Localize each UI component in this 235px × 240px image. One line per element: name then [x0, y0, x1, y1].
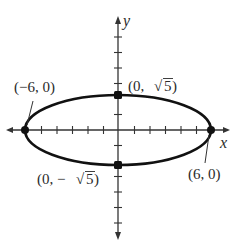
y-axis-bottom-arrow-icon [115, 232, 121, 240]
y-axis-top-arrow-icon [115, 16, 121, 24]
leader-line-left [27, 101, 33, 125]
label-right-vertex: (6, 0) [188, 166, 221, 183]
x-axis-label: x [219, 134, 227, 151]
y-axis: y [114, 12, 131, 240]
sqrt-symbol-icon: √ [76, 171, 85, 187]
ellipse-graph: x y (−6, 0) (0, √ [0, 0, 235, 240]
x-axis-right-arrow-icon [223, 127, 230, 133]
y-axis-label: y [121, 12, 131, 30]
svg-text:): ) [172, 78, 177, 95]
svg-text:(0,: (0, [128, 78, 144, 95]
point-left-vertex [21, 126, 29, 134]
x-axis-left-arrow-icon [6, 127, 13, 133]
svg-text:5: 5 [164, 78, 172, 94]
point-right-vertex [207, 126, 215, 134]
label-top-covertex: (0, √ 5 ) [128, 78, 177, 95]
svg-text:(0, −: (0, − [37, 171, 65, 188]
svg-text:5: 5 [86, 171, 94, 187]
label-left-vertex: (−6, 0) [14, 79, 55, 96]
point-bottom-covertex [114, 161, 122, 169]
sqrt-symbol-icon: √ [154, 78, 163, 94]
label-bottom-covertex: (0, − √ 5 ) [37, 171, 99, 188]
svg-text:): ) [94, 171, 99, 188]
point-top-covertex [114, 91, 122, 99]
